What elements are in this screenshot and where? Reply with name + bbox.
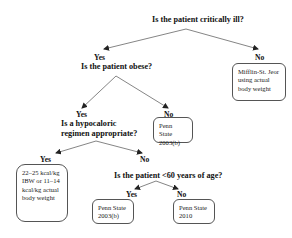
outcome-line: IBW or 11–14 xyxy=(22,177,62,185)
branch-label-yes-hypocaloric: Yes xyxy=(40,155,51,164)
outcome-line: 2003(b) xyxy=(98,212,128,220)
outcome-penn-state-2010: Penn State 2010 xyxy=(173,199,215,224)
outcome-hypocaloric-regimen: 22–25 kcal/kg IBW or 11–14 kcal/kg actua… xyxy=(16,164,68,222)
branch-label-yes-critically-ill: Yes xyxy=(94,53,105,62)
outcome-penn-state-2003b-young: Penn State 2003(b) xyxy=(92,199,134,224)
outcome-line: 2003(b) xyxy=(159,139,187,147)
outcome-line: 22–25 kcal/kg xyxy=(22,169,62,177)
decision-tree-diagram: Is the patient critically ill? Yes No Is… xyxy=(0,0,292,238)
question-under-60: Is the patient <60 years of age? xyxy=(114,171,222,181)
outcome-line: body weight xyxy=(238,85,280,93)
outcome-mifflin-st-jeor: Mifflin-St. Jeor using actual body weigh… xyxy=(232,63,286,101)
branch-label-no-critically-ill: No xyxy=(255,53,264,62)
question-line: regimen appropriate? xyxy=(61,129,137,139)
branch-label-yes-under-60: Yes xyxy=(126,190,137,199)
question-line: Is a hypocaloric xyxy=(61,119,137,129)
branch-label-yes-obese: Yes xyxy=(76,110,87,119)
outcome-line: body weight xyxy=(22,194,62,202)
outcome-penn-state-2003b-nonobese: Penn State 2003(b) xyxy=(153,117,193,143)
outcome-line: Penn State xyxy=(159,122,187,139)
outcome-line: Penn State xyxy=(179,204,209,212)
branch-label-no-hypocaloric: No xyxy=(140,155,149,164)
outcome-line: 2010 xyxy=(179,212,209,220)
question-hypocaloric: Is a hypocaloric regimen appropriate? xyxy=(61,119,137,139)
question-obese: Is the patient obese? xyxy=(81,62,152,72)
question-critically-ill: Is the patient critically ill? xyxy=(152,15,244,25)
branch-label-no-under-60: No xyxy=(177,190,186,199)
outcome-line: Penn State xyxy=(98,204,128,212)
outcome-line: using actual xyxy=(238,76,280,84)
outcome-line: kcal/kg actual xyxy=(22,186,62,194)
outcome-line: Mifflin-St. Jeor xyxy=(238,68,280,76)
